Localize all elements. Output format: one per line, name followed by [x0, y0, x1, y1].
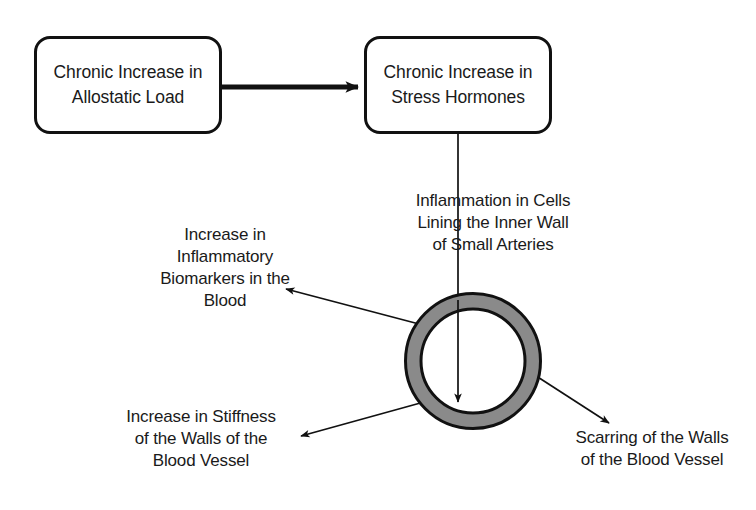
diagram-canvas: Chronic Increase in Allostatic Load Chro… [0, 0, 756, 510]
label-biomarkers-line1: Increase in [112, 224, 338, 246]
label-biomarkers-line2: Inflammatory [112, 246, 338, 268]
label-increase-inflammatory-biomarkers: Increase in Inflammatory Biomarkers in t… [112, 224, 338, 312]
label-scarring-line2: of the Blood Vessel [552, 449, 752, 471]
label-inflammation-cells-line2: Lining the Inner Wall [382, 212, 604, 234]
label-inflammation-cells-line3: of Small Arteries [382, 234, 604, 256]
node-chronic-increase-allostatic-load[interactable]: Chronic Increase in Allostatic Load [34, 36, 222, 134]
node-allostatic-load-line1: Chronic Increase in [54, 60, 203, 85]
label-scarring-line1: Scarring of the Walls [552, 427, 752, 449]
node-stress-hormones-line2: Stress Hormones [391, 85, 525, 110]
label-stiffness-line1: Increase in Stiffness [85, 406, 317, 428]
label-biomarkers-line3: Biomarkers in the [112, 268, 338, 290]
label-biomarkers-line4: Blood [112, 290, 338, 312]
node-allostatic-load-line2: Allostatic Load [72, 85, 184, 110]
label-increase-in-stiffness: Increase in Stiffness of the Walls of th… [85, 406, 317, 472]
blood-vessel-cross-section [406, 294, 541, 429]
connector-vessel-to-scarring [530, 372, 609, 423]
connector-vessel-to-stiffness [301, 402, 424, 436]
vessel-lumen-circle [421, 309, 525, 413]
node-chronic-increase-stress-hormones[interactable]: Chronic Increase in Stress Hormones [364, 36, 552, 134]
node-stress-hormones-line1: Chronic Increase in [384, 60, 533, 85]
label-inflammation-in-cells: Inflammation in Cells Lining the Inner W… [382, 190, 604, 256]
label-scarring-of-the-walls: Scarring of the Walls of the Blood Vesse… [552, 427, 752, 471]
label-stiffness-line2: of the Walls of the [85, 428, 317, 450]
label-stiffness-line3: Blood Vessel [85, 450, 317, 472]
label-inflammation-cells-line1: Inflammation in Cells [382, 190, 604, 212]
